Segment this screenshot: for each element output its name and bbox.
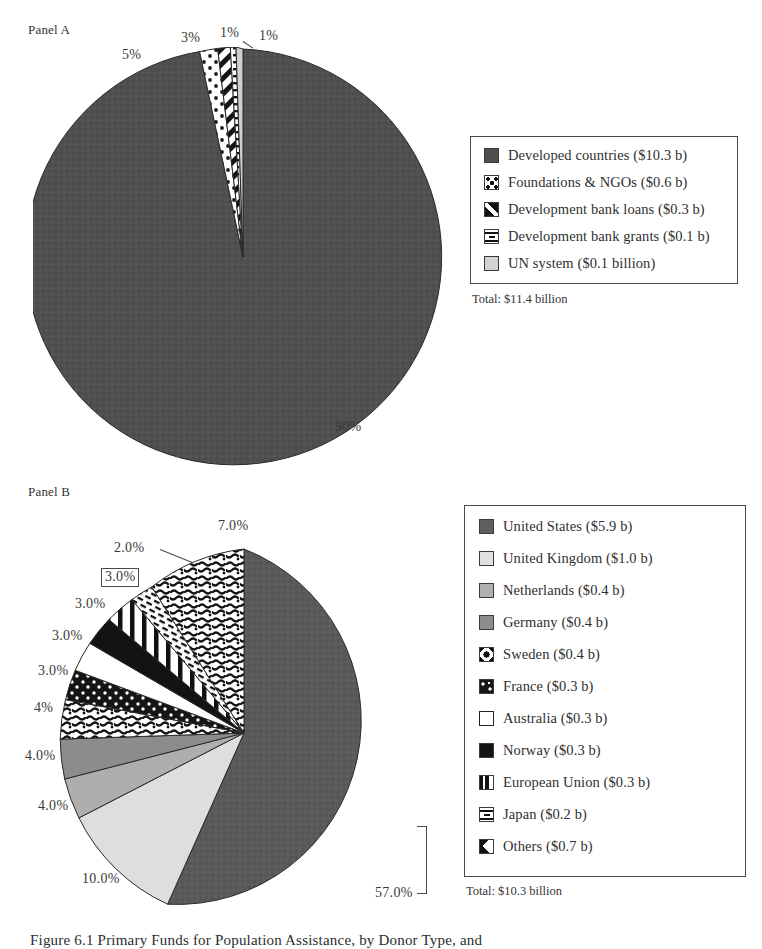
legend-item-united-kingdom[interactable]: United Kingdom ($1.0 b) <box>479 551 745 566</box>
legend-item-developed-countries[interactable]: Developed countries ($10.3 b) <box>484 148 737 163</box>
pie-label-4pct-netherlands: 4.0% <box>38 798 68 814</box>
legend-label: France ($0.3 b) <box>503 679 593 694</box>
panel-a-total: Total: $11.4 billion <box>472 292 568 307</box>
swatch-dots-corner-icon <box>484 175 499 190</box>
swatch-horizontal-dash-icon <box>484 229 499 244</box>
legend-item-un-system[interactable]: UN system ($0.1 billion) <box>484 256 737 271</box>
swatch-squiggle-dense-icon <box>479 647 494 662</box>
swatch-white-plain-icon <box>479 711 494 726</box>
swatch-dark-speckle-icon <box>479 679 494 694</box>
legend-label: Foundations & NGOs ($0.6 b) <box>508 175 688 190</box>
legend-item-development-bank-grants[interactable]: Development bank grants ($0.1 b) <box>484 229 737 244</box>
legend-label: UN system ($0.1 billion) <box>508 256 655 271</box>
pie-label-3pct-eu: 3.0% <box>101 568 139 587</box>
legend-item-sweden[interactable]: Sweden ($0.4 b) <box>479 647 745 662</box>
panel-b-pie <box>58 547 430 919</box>
figure-caption: Figure 6.1 Primary Funds for Population … <box>30 932 482 949</box>
swatch-solid-light-gray-icon <box>484 256 499 271</box>
legend-label: Sweden ($0.4 b) <box>503 647 600 662</box>
leader-line-united-states-foot <box>417 893 427 894</box>
swatch-solid-mid-gray-icon <box>479 583 494 598</box>
swatch-solid-gray-icon <box>479 615 494 630</box>
swatch-solid-dark-gray-icon <box>484 148 499 163</box>
panel-b-total: Total: $10.3 billion <box>466 884 562 899</box>
pie-label-1pct-grants: 1% <box>220 25 239 41</box>
legend-label: Development bank grants ($0.1 b) <box>508 229 710 244</box>
legend-label: Germany ($0.4 b) <box>503 615 608 630</box>
pie-label-5pct: 5% <box>122 47 141 63</box>
legend-label: Developed countries ($10.3 b) <box>508 148 687 163</box>
panel-a-pie <box>33 47 453 467</box>
legend-label: Japan ($0.2 b) <box>503 807 587 822</box>
pie-label-4pct-sweden: 4% <box>34 700 53 716</box>
pie-label-2pct: 2.0% <box>114 540 144 556</box>
pie-label-10pct: 10.0% <box>82 871 120 887</box>
pie-label-3pct-france: 3.0% <box>38 663 68 679</box>
swatch-diagonal-stripe-icon <box>484 202 499 217</box>
pie-label-57pct: 57.0% <box>375 885 413 901</box>
swatch-solid-black-icon <box>479 743 494 758</box>
pie-label-4pct-germany: 4.0% <box>25 748 55 764</box>
swatch-vertical-bars-icon <box>479 775 494 790</box>
legend-item-european-union[interactable]: European Union ($0.3 b) <box>479 775 745 790</box>
panel-a-legend: Developed countries ($10.3 b) Foundation… <box>470 136 738 284</box>
legend-label: European Union ($0.3 b) <box>503 775 650 790</box>
panel-b-pie-svg <box>58 547 430 919</box>
legend-label: Norway ($0.3 b) <box>503 743 601 758</box>
legend-item-others[interactable]: Others ($0.7 b) <box>479 839 745 854</box>
legend-label: Netherlands ($0.4 b) <box>503 583 625 598</box>
panel-b-label: Panel B <box>28 484 70 500</box>
swatch-solid-very-light-gray-icon <box>479 551 494 566</box>
legend-item-japan[interactable]: Japan ($0.2 b) <box>479 807 745 822</box>
pie-label-3pct-australia: 3.0% <box>52 628 82 644</box>
legend-item-development-bank-loans[interactable]: Development bank loans ($0.3 b) <box>484 202 737 217</box>
panel-a-pie-svg <box>33 47 453 467</box>
legend-label: Others ($0.7 b) <box>503 839 593 854</box>
legend-item-australia[interactable]: Australia ($0.3 b) <box>479 711 745 726</box>
pie-label-1pct-un: 1% <box>259 28 278 44</box>
pie-label-3pct: 3% <box>181 30 200 46</box>
leader-line-united-states-head <box>417 826 427 827</box>
legend-item-foundations-ngos[interactable]: Foundations & NGOs ($0.6 b) <box>484 175 737 190</box>
pie-label-90pct: 90% <box>335 419 362 435</box>
legend-label: Development bank loans ($0.3 b) <box>508 202 705 217</box>
legend-item-netherlands[interactable]: Netherlands ($0.4 b) <box>479 583 745 598</box>
pie-label-3pct-norway: 3.0% <box>75 596 105 612</box>
swatch-wedge-mark-icon <box>479 839 494 854</box>
legend-item-norway[interactable]: Norway ($0.3 b) <box>479 743 745 758</box>
legend-label: United Kingdom ($1.0 b) <box>503 551 653 566</box>
legend-item-germany[interactable]: Germany ($0.4 b) <box>479 615 745 630</box>
legend-item-france[interactable]: France ($0.3 b) <box>479 679 745 694</box>
swatch-horizontal-dash-icon <box>479 807 494 822</box>
panel-a-label: Panel A <box>28 22 70 38</box>
legend-item-united-states[interactable]: United States ($5.9 b) <box>479 519 745 534</box>
leader-line-united-states <box>426 826 427 894</box>
panel-b-legend: United States ($5.9 b) United Kingdom ($… <box>464 505 746 877</box>
pie-label-7pct: 7.0% <box>218 518 248 534</box>
swatch-solid-dark-gray-icon <box>479 519 494 534</box>
legend-label: Australia ($0.3 b) <box>503 711 607 726</box>
legend-label: United States ($5.9 b) <box>503 519 632 534</box>
